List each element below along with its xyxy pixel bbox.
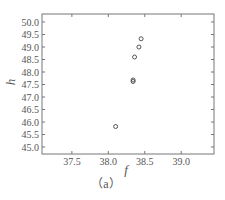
scatter-plot: 37.538.039.038.5 45.045.546.046.547.047.… [0,0,225,200]
x-tick-label: 39.0 [172,156,190,167]
x-tick-label: 38.0 [100,156,118,167]
x-axis-ticks: 37.538.039.038.5 [63,14,190,167]
figure-caption: （a） [91,177,120,191]
data-point-marker [133,55,137,59]
data-point-marker [139,37,143,41]
y-axis-label: h [3,79,18,86]
y-tick-label: 47.0 [22,92,40,103]
scatter-figure: 37.538.039.038.5 45.045.546.046.547.047.… [0,0,225,200]
x-axis-label: f [124,162,130,177]
axes-box [42,14,214,154]
plot-frame [42,14,214,154]
y-tick-label: 45.5 [22,129,40,140]
y-tick-label: 48.5 [22,54,40,65]
data-point-marker [137,45,141,49]
x-tick-label: 38.5 [136,156,154,167]
y-tick-label: 47.5 [22,79,40,90]
y-tick-label: 45.0 [22,142,40,153]
y-tick-label: 48.0 [22,67,40,78]
data-points [114,37,144,129]
y-tick-label: 49.5 [22,29,40,40]
x-tick-label: 37.5 [63,156,81,167]
y-tick-label: 46.5 [22,104,40,115]
y-tick-label: 49.0 [22,42,40,53]
y-tick-label: 46.0 [22,117,40,128]
data-point-marker [114,125,118,129]
y-tick-label: 50.0 [22,17,40,28]
y-axis-ticks: 45.045.546.046.547.047.548.048.549.049.5… [22,17,215,153]
